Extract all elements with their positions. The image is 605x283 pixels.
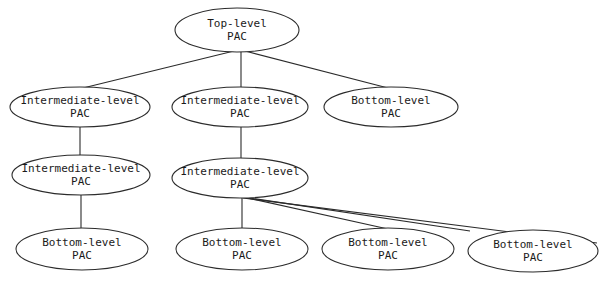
- node-ellipse-n9[interactable]: [322, 228, 454, 270]
- node-ellipse-n4[interactable]: [324, 87, 458, 127]
- diagram-graphics: [0, 0, 605, 283]
- edge-n1-to-n2: [83, 51, 234, 88]
- node-ellipse-n10[interactable]: [468, 230, 598, 272]
- node-ellipse-n6[interactable]: [172, 158, 308, 198]
- node-layer: [10, 8, 598, 272]
- edge-layer: [80, 51, 597, 243]
- node-ellipse-n7[interactable]: [16, 228, 148, 270]
- node-ellipse-n2[interactable]: [10, 87, 150, 127]
- diagram-canvas: Top-levelPACIntermediate-levelPACInterme…: [0, 0, 605, 283]
- node-ellipse-n8[interactable]: [176, 228, 308, 270]
- edge-n1-to-n4: [245, 51, 388, 88]
- node-ellipse-n3[interactable]: [172, 87, 308, 127]
- node-ellipse-n1[interactable]: [175, 8, 299, 52]
- node-ellipse-n5[interactable]: [12, 155, 150, 195]
- edge-n6-to-n9: [243, 197, 388, 229]
